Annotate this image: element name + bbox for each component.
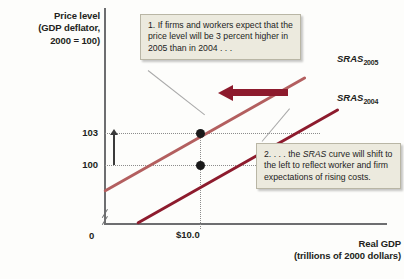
sras-2004-label-sub: 2004: [363, 98, 378, 105]
equilibrium-point-2005: [196, 129, 205, 138]
y-axis-title-line2: (GDP deflator,: [38, 22, 100, 33]
price-level-rise-arrow-icon: [113, 134, 115, 165]
sras-2004-label-main: SRAS: [337, 92, 363, 103]
callout-box-1: 1. If firms and workers expect that the …: [140, 14, 301, 60]
sras-2005-label-sub: 2005: [363, 59, 378, 66]
guide-line-output: [200, 133, 201, 229]
curve-shift-left-arrow-icon: [232, 89, 288, 96]
callout-2-italic-term: SRAS: [303, 149, 327, 159]
x-tick-label-10: $10.0: [176, 229, 200, 240]
equilibrium-point-2004: [196, 161, 205, 170]
callout-2-text-before: 2. . . . the: [264, 149, 303, 159]
sras-2005-label: SRAS2005: [337, 53, 378, 66]
sras-2004-label: SRAS2004: [337, 92, 378, 105]
y-tick-label-103: 103: [72, 127, 98, 138]
x-axis-line: [104, 223, 387, 225]
guide-line-103: [105, 133, 320, 134]
x-axis-title-line2: (trillions of 2000 dollars): [215, 250, 401, 262]
x-axis-title: Real GDP (trillions of 2000 dollars): [215, 238, 401, 263]
y-tick-label-100: 100: [72, 159, 98, 170]
sras-2005-label-main: SRAS: [337, 53, 363, 64]
callout-1-leader-line: [148, 70, 205, 115]
callout-box-2: 2. . . . the SRAS curve will shift to th…: [256, 143, 401, 189]
y-axis-title: Price level (GDP deflator, 2000 = 100): [6, 10, 100, 47]
sras-shift-chart: Price level (GDP deflator, 2000 = 100) R…: [0, 0, 404, 279]
y-axis-title-line3: 2000 = 100): [50, 35, 100, 46]
y-axis-title-line1: Price level: [54, 10, 100, 21]
x-axis-title-line1: Real GDP: [215, 238, 401, 250]
origin-label: 0: [89, 230, 94, 241]
